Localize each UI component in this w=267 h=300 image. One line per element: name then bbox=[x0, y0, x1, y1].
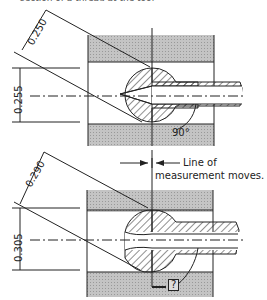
lower-vertical-dimension: 0.305 bbox=[14, 233, 24, 262]
lower-bottom-block bbox=[87, 272, 213, 297]
upper-angle-label: 90° bbox=[172, 128, 190, 138]
lower-top-block bbox=[87, 190, 213, 212]
upper-bottom-block bbox=[88, 124, 214, 146]
annotation-line1: Line of bbox=[183, 158, 217, 168]
lower-angle-label: ? bbox=[168, 279, 179, 291]
upper-figure bbox=[12, 10, 244, 146]
top-caption: section of a thread at the tool bbox=[20, 0, 154, 3]
measurement-arrows bbox=[120, 158, 180, 168]
technical-drawing: section of a thread at the tool 0.250 0.… bbox=[0, 0, 267, 300]
upper-top-block bbox=[88, 35, 214, 62]
annotation-line2: measurement moves. bbox=[155, 171, 264, 181]
upper-vertical-dimension: 0.255 bbox=[14, 85, 24, 114]
drawing-canvas bbox=[0, 0, 267, 300]
